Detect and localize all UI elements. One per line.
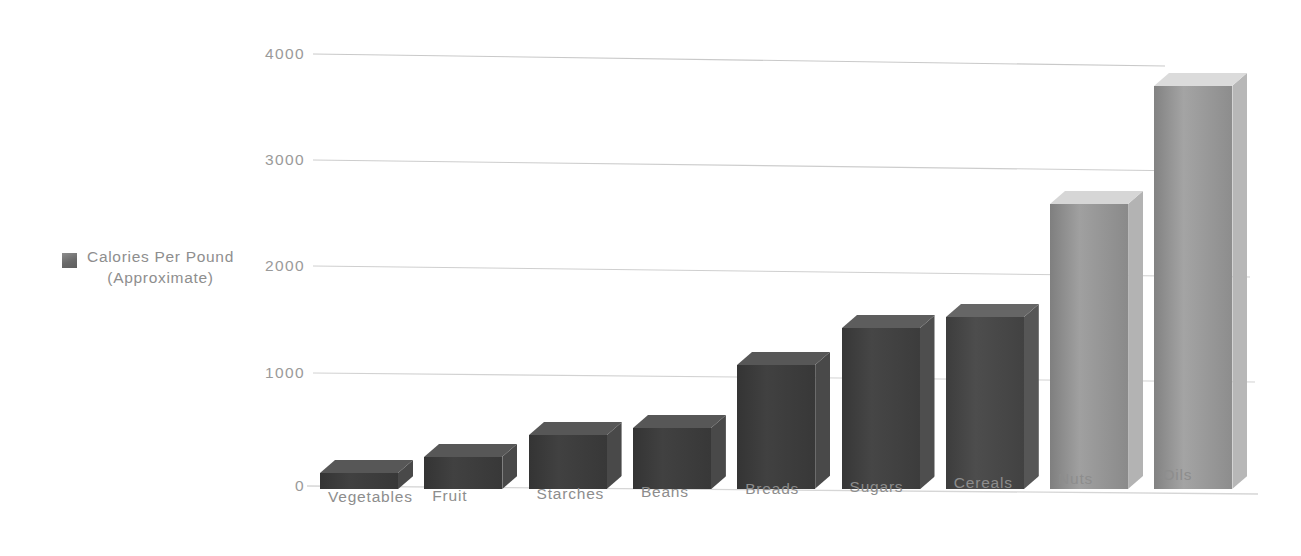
bar-side-face — [1232, 73, 1247, 489]
bar-side-face-shape — [815, 352, 830, 489]
bar-front-face — [633, 428, 711, 489]
bar-side-face-shape — [1024, 304, 1039, 489]
bar-beans — [633, 415, 726, 489]
bar-starches — [529, 422, 622, 489]
bar-side-face-shape — [1232, 73, 1247, 489]
bar-front-face — [424, 457, 502, 489]
x-axis-label-beans: Beans — [641, 483, 689, 501]
bar-vegetables — [320, 460, 413, 489]
bar-front-face — [1050, 204, 1128, 489]
bar-nuts — [1050, 191, 1143, 489]
bar-cereals — [946, 304, 1039, 489]
bar-front-face — [842, 328, 920, 489]
bar-side-face-shape — [920, 315, 935, 489]
bar-side-face-shape — [1128, 191, 1143, 489]
bar-side-face — [920, 315, 935, 489]
x-axis-label-sugars: Sugars — [850, 478, 904, 496]
bar-side-face — [815, 352, 830, 489]
bar-front-face — [1154, 86, 1232, 489]
x-axis-label-breads: Breads — [745, 480, 799, 498]
x-axis-label-fruit: Fruit — [432, 487, 467, 505]
x-axis-label-vegetables: Vegetables — [328, 488, 413, 506]
bar-front-face — [320, 473, 398, 489]
bar-front-face — [946, 317, 1024, 489]
bar-front-face — [529, 435, 607, 489]
bar-fruit — [424, 444, 517, 489]
calories-per-pound-bar-chart: Calories Per Pound (Approximate) 4000 30… — [0, 0, 1301, 556]
bar-series — [0, 0, 1301, 556]
x-axis-label-starches: Starches — [537, 485, 605, 503]
bar-side-face — [1128, 191, 1143, 489]
bar-oils — [1154, 73, 1247, 489]
bar-sugars — [842, 315, 935, 489]
bar-breads — [737, 352, 830, 489]
x-axis-label-nuts: Nuts — [1058, 470, 1093, 488]
bar-side-face — [1024, 304, 1039, 489]
x-axis-label-oils: Oils — [1162, 466, 1192, 484]
bar-front-face — [737, 365, 815, 489]
x-axis-label-cereals: Cereals — [954, 474, 1013, 492]
